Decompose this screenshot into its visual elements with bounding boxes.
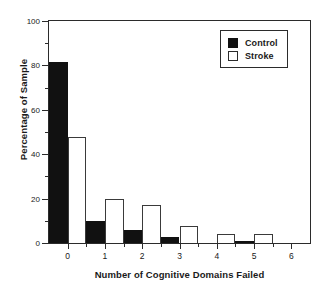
open-square-icon: [228, 51, 238, 61]
x-tick-minor: [273, 243, 274, 247]
y-tick-major: [42, 65, 49, 66]
x-tick-label: 5: [252, 251, 257, 261]
x-tick-minor: [198, 243, 199, 247]
y-tick-label: 0: [36, 239, 40, 248]
y-tick-minor: [45, 43, 49, 44]
bar-stroke-2: [142, 205, 161, 243]
legend-label-control: Control: [245, 38, 278, 48]
x-tick-major: [68, 243, 69, 249]
x-tick-major: [217, 243, 218, 249]
x-tick-minor: [124, 243, 125, 247]
y-tick-major: [42, 243, 49, 244]
x-tick-major: [105, 243, 106, 249]
bar-control-0: [49, 62, 68, 243]
x-tick-major: [291, 243, 292, 249]
y-tick-major: [42, 110, 49, 111]
legend-item-stroke: Stroke: [228, 49, 278, 62]
y-tick-label: 40: [31, 150, 40, 159]
x-tick-major: [142, 243, 143, 249]
bar-control-3: [161, 237, 180, 243]
chart-figure: Percentage of Sample 020406080100 012345…: [0, 0, 327, 295]
x-tick-major: [254, 243, 255, 249]
plot-area: 020406080100 0123456 Control Stroke: [48, 20, 311, 244]
x-tick-label: 1: [103, 251, 108, 261]
legend-label-stroke: Stroke: [245, 51, 274, 61]
y-tick-major: [42, 21, 49, 22]
x-tick-minor: [235, 243, 236, 247]
x-tick-minor: [86, 243, 87, 247]
legend-item-control: Control: [228, 36, 278, 49]
x-tick-label: 3: [177, 251, 182, 261]
bar-stroke-0: [68, 137, 87, 243]
bar-control-2: [124, 230, 143, 243]
bar-control-1: [86, 221, 105, 243]
bar-stroke-5: [254, 234, 273, 243]
bar-control-5: [235, 241, 254, 243]
x-tick-label: 6: [289, 251, 294, 261]
y-tick-major: [42, 199, 49, 200]
x-tick-label: 0: [65, 251, 70, 261]
y-tick-major: [42, 154, 49, 155]
filled-square-icon: [228, 38, 238, 48]
x-tick-label: 4: [214, 251, 219, 261]
x-tick-label: 2: [140, 251, 145, 261]
bar-stroke-3: [180, 226, 199, 243]
x-axis-label: Number of Cognitive Domains Failed: [48, 269, 311, 280]
y-tick-label: 100: [27, 17, 40, 26]
y-tick-label: 20: [31, 194, 40, 203]
x-tick-minor: [161, 243, 162, 247]
bar-stroke-4: [217, 234, 236, 243]
y-axis-label: Percentage of Sample: [18, 0, 29, 225]
x-tick-major: [180, 243, 181, 249]
y-tick-label: 80: [31, 61, 40, 70]
chart-legend: Control Stroke: [220, 30, 288, 68]
bar-stroke-1: [105, 199, 124, 243]
y-tick-label: 60: [31, 105, 40, 114]
